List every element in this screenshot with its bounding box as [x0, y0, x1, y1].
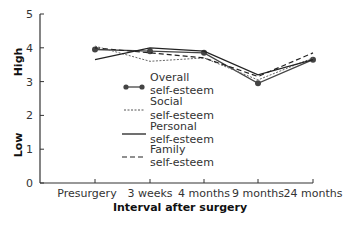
- y-tick-label: 1: [26, 143, 33, 156]
- data-point: [92, 46, 98, 52]
- svg-text:Personal: Personal: [150, 120, 197, 133]
- x-tick-label: Presurgery: [57, 187, 117, 200]
- y-tick-label: 5: [26, 8, 33, 21]
- svg-text:Overall: Overall: [150, 71, 189, 84]
- legend: Overall self-esteem Social self-esteem P…: [122, 71, 214, 169]
- x-tick-label: 3 weeks: [127, 187, 172, 200]
- svg-text:self-esteem: self-esteem: [150, 156, 214, 169]
- y-ticks: 012345: [26, 8, 44, 190]
- x-axis-title: Interval after surgery: [113, 201, 247, 214]
- line-chart: 012345 Presurgery3 weeks4 months9 months…: [0, 0, 355, 226]
- legend-item-overall: Overall self-esteem: [123, 71, 213, 97]
- svg-text:Social: Social: [150, 95, 183, 108]
- y-tick-label: 3: [26, 76, 33, 89]
- svg-text:Family: Family: [150, 143, 186, 156]
- x-tick-label: 24 months: [284, 187, 343, 200]
- y-tick-label: 4: [26, 42, 33, 55]
- y-axis-label-high: High: [12, 48, 25, 77]
- y-axis-label-low: Low: [12, 133, 25, 158]
- x-tick-label: 9 months: [232, 187, 284, 200]
- series-lines: [92, 46, 316, 86]
- legend-item-social: Social self-esteem: [124, 95, 214, 122]
- y-tick-label: 2: [26, 109, 33, 122]
- y-tick-label: 0: [26, 177, 33, 190]
- legend-item-family: Family self-esteem: [122, 143, 214, 169]
- x-ticks: Presurgery3 weeks4 months9 months24 mont…: [57, 179, 342, 200]
- x-tick-label: 4 months: [178, 187, 230, 200]
- data-point: [255, 80, 261, 86]
